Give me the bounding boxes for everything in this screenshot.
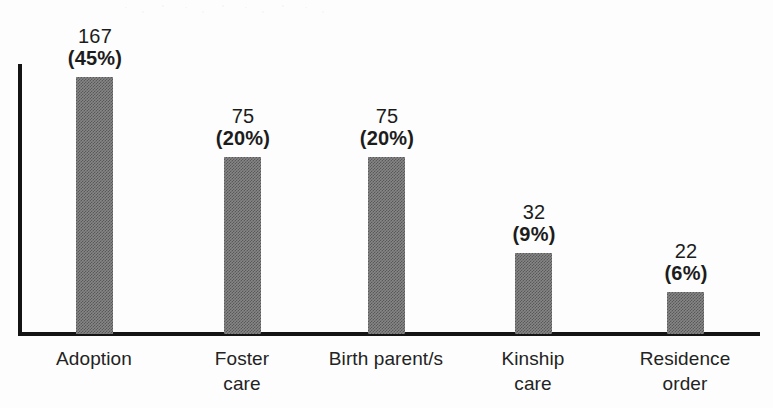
bar-label-group: 75 (20%) (327, 106, 447, 149)
bar-adoption (76, 77, 113, 334)
bar-value-label: 75 (327, 106, 447, 127)
category-label-line: Adoption (14, 346, 174, 371)
bar-percent-label: (20%) (327, 128, 447, 149)
category-label-line: care (162, 371, 322, 396)
bar-label-group: 32 (9%) (474, 202, 594, 245)
category-label-line: Residence (605, 346, 765, 371)
category-label-birth-parents: Birth parent/s (306, 346, 466, 371)
bar-birth-parents (368, 157, 405, 334)
bar-residence-order (667, 292, 704, 334)
bar-kinship-care (515, 253, 552, 334)
bar-value-label: 75 (183, 106, 303, 127)
category-label-line: Foster (162, 346, 322, 371)
category-label-foster-care: Foster care (162, 346, 322, 396)
bar-chart: 167 (45%) Adoption 75 (20%) Foster care … (0, 0, 773, 408)
bar-percent-label: (20%) (183, 128, 303, 149)
bar-label-group: 22 (6%) (626, 241, 746, 284)
bar-foster-care (224, 157, 261, 334)
bar-percent-label: (6%) (626, 263, 746, 284)
plot-area: 167 (45%) Adoption 75 (20%) Foster care … (0, 0, 773, 408)
y-axis-line (18, 64, 22, 336)
bar-percent-label: (9%) (474, 224, 594, 245)
bar-label-group: 75 (20%) (183, 106, 303, 149)
category-label-residence-order: Residence order (605, 346, 765, 396)
category-label-line: Birth parent/s (306, 346, 466, 371)
bar-label-group: 167 (45%) (35, 26, 155, 69)
category-label-line: care (453, 371, 613, 396)
bar-value-label: 22 (626, 241, 746, 262)
category-label-kinship-care: Kinship care (453, 346, 613, 396)
bar-value-label: 167 (35, 26, 155, 47)
category-label-adoption: Adoption (14, 346, 174, 371)
category-label-line: order (605, 371, 765, 396)
bar-percent-label: (45%) (35, 48, 155, 69)
bar-value-label: 32 (474, 202, 594, 223)
category-label-line: Kinship (453, 346, 613, 371)
